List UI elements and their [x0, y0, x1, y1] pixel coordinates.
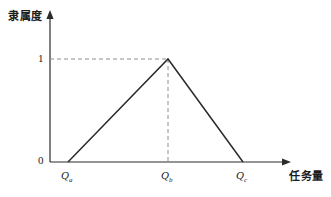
y-axis-arrow-icon	[46, 10, 53, 19]
x-axis-title: 任务量	[289, 171, 324, 182]
y-axis-title: 隶属度	[8, 11, 43, 22]
x-tick-qc-subscript: c	[244, 176, 247, 184]
x-tick-label-qa: Qa	[61, 170, 72, 184]
x-tick-qc-base: Q	[236, 169, 244, 181]
x-tick-qb-subscript: b	[169, 176, 173, 184]
x-tick-label-qb: Qb	[161, 170, 172, 184]
y-tick-label-0: 0	[38, 155, 44, 166]
membership-curve	[68, 59, 243, 162]
membership-function-figure: 隶属度 任务量 1 0 Qa Qb Qc	[0, 0, 331, 197]
x-tick-qb-base: Q	[161, 169, 169, 181]
x-tick-qa-base: Q	[61, 169, 69, 181]
plot-area	[0, 0, 331, 197]
y-tick-label-1: 1	[38, 53, 44, 64]
x-tick-label-qc: Qc	[236, 170, 247, 184]
x-tick-qa-subscript: a	[69, 176, 73, 184]
x-axis-arrow-icon	[282, 158, 291, 165]
